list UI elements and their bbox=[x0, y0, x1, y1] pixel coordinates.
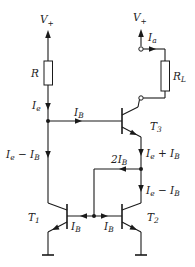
transistor-t3 bbox=[122, 107, 141, 137]
ie-label: Ie bbox=[31, 99, 41, 113]
2ib-arrow-icon bbox=[119, 166, 126, 171]
ie-minus-ib-left-label: Ie − IB bbox=[5, 148, 40, 162]
ie-arrow-icon bbox=[45, 103, 51, 110]
resistor-rl-label: RL bbox=[172, 70, 186, 84]
t3-label: T3 bbox=[150, 120, 162, 134]
ie-minus-ib-right-label: Ie − IB bbox=[145, 184, 180, 198]
2ib-label: 2IB bbox=[110, 153, 128, 167]
ia-label: Ia bbox=[147, 31, 157, 45]
t2-label: T2 bbox=[147, 211, 159, 225]
left-supply: V+ bbox=[40, 13, 54, 61]
t1-emitter-arrow-icon bbox=[52, 225, 60, 230]
terminal-top bbox=[139, 47, 143, 51]
circuit-diagram: V+ R Ie IB Ie − IB T3 V+ Ia RL Ie + IB 2… bbox=[0, 0, 195, 267]
v-plus-right-label: V+ bbox=[133, 11, 147, 26]
ib-t1-label: IB bbox=[70, 220, 81, 234]
t1-label: T1 bbox=[28, 211, 40, 225]
ib-t2-arrow-icon bbox=[101, 213, 108, 218]
resistor-rl bbox=[161, 61, 170, 91]
ie-plus-ib-arrow-icon bbox=[138, 149, 144, 156]
node-base bbox=[92, 214, 96, 218]
v-plus-left-label: V+ bbox=[40, 13, 54, 28]
ie-plus-ib-label: Ie + IB bbox=[145, 147, 180, 161]
resistor-r-label: R bbox=[30, 67, 39, 79]
ie-minus-ib-left-arrow-icon bbox=[45, 151, 51, 158]
ie-minus-ib-right-arrow-icon bbox=[138, 185, 144, 192]
transistor-t2 bbox=[122, 203, 147, 255]
ib-t2-label: IB bbox=[103, 220, 114, 234]
resistor-r bbox=[44, 61, 53, 85]
t2-emitter-arrow-icon bbox=[130, 225, 138, 230]
t3-emitter-arrow-icon bbox=[130, 130, 138, 135]
transistor-t1 bbox=[42, 203, 67, 255]
ib-top-label: IB bbox=[73, 106, 84, 120]
ia-flow-arrow-icon bbox=[149, 46, 156, 51]
ib-t1-arrow-icon bbox=[80, 213, 87, 218]
